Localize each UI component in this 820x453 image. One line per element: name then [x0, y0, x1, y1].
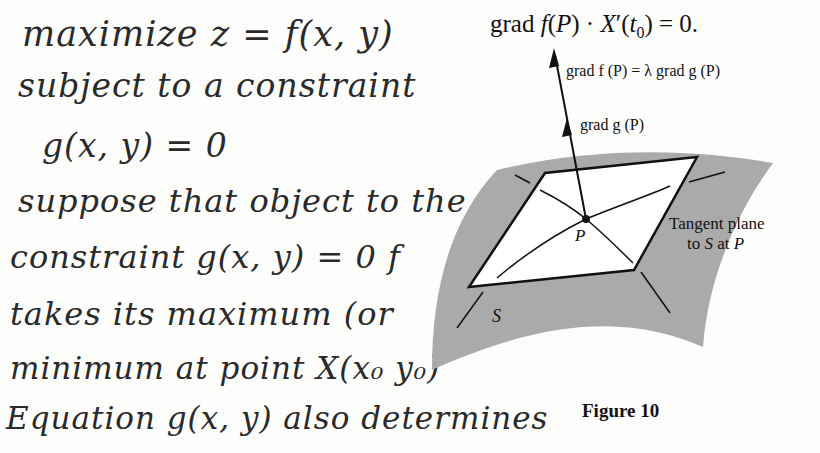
- label-surface-s: S: [492, 306, 501, 327]
- eq-end: ) = 0.: [644, 10, 698, 37]
- label-tangent-to: to: [687, 234, 704, 253]
- arrowhead-grad-g: [562, 118, 572, 137]
- label-point-p: P: [575, 226, 585, 246]
- eq-paren: (: [548, 10, 556, 37]
- label-tangent-2: to S at P: [687, 234, 744, 254]
- arrowhead-grad-f: [549, 48, 559, 68]
- point-p: [582, 215, 590, 223]
- eq-dot: ) ·: [571, 10, 600, 37]
- equation-top: grad f(P) · X′(t0) = 0.: [490, 10, 698, 42]
- eq-grad: grad: [490, 10, 541, 37]
- label-tangent-s: S: [704, 234, 713, 253]
- label-tangent-1: Tangent plane: [669, 214, 765, 234]
- label-grad-f: grad f (P) = λ grad g (P): [566, 62, 720, 80]
- figure-caption: Figure 10: [582, 400, 659, 422]
- eq-f: f: [541, 10, 548, 37]
- eq-prime: ′(: [616, 10, 630, 37]
- label-tangent-p: P: [734, 234, 744, 253]
- eq-p: P: [556, 10, 571, 37]
- label-grad-g: grad g (P): [580, 116, 644, 134]
- label-tangent-at: at: [713, 234, 734, 253]
- eq-x: X: [600, 10, 615, 37]
